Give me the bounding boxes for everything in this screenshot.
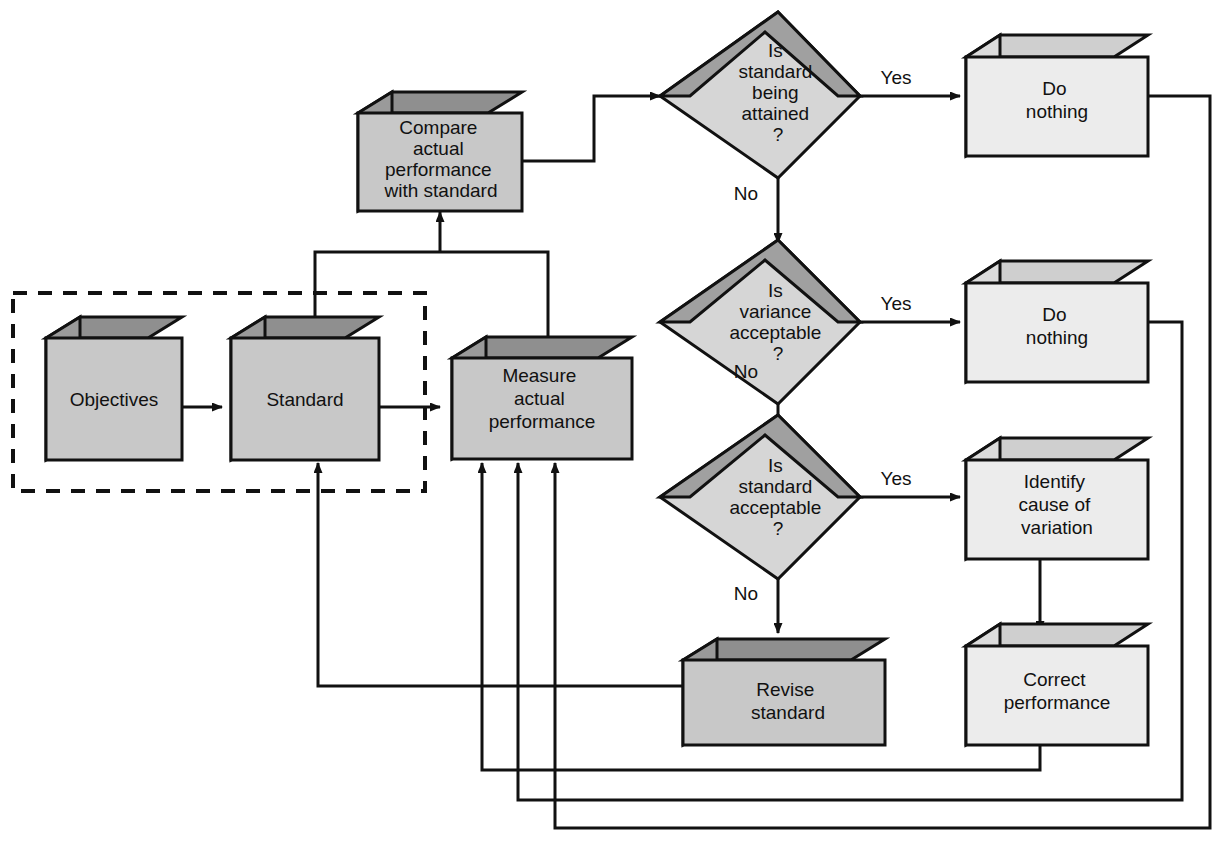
node-stdaccept[interactable]: Is standard acceptable ? <box>660 415 860 579</box>
node-attained[interactable]: Is standard being attained ? <box>660 12 860 178</box>
node-measure[interactable]: Measure actual performance <box>452 337 632 459</box>
objectives-label: Objectives <box>70 389 159 410</box>
label-yes-3: Yes <box>881 468 912 489</box>
identify-label: Identify cause of variation <box>1018 471 1095 538</box>
compare-label: Compare actual performance with standard <box>383 117 497 201</box>
standard-label: Standard <box>266 389 343 410</box>
node-standard[interactable]: Standard <box>231 317 379 460</box>
label-no-1: No <box>734 183 758 204</box>
edge-compare-to-attained <box>522 96 660 161</box>
label-no-2: No <box>734 361 758 382</box>
flowchart-svg: Objectives Standard Measure actual perfo… <box>0 0 1213 844</box>
node-variance[interactable]: Is variance acceptable ? <box>660 240 860 404</box>
diagram-canvas: Objectives Standard Measure actual perfo… <box>0 0 1213 844</box>
edge-revise-to-standard <box>318 463 683 686</box>
node-identify[interactable]: Identify cause of variation <box>966 438 1148 559</box>
node-correct[interactable]: Correct performance <box>966 624 1148 745</box>
label-yes-1: Yes <box>881 67 912 88</box>
label-yes-2: Yes <box>881 293 912 314</box>
node-donothing-1[interactable]: Do nothing <box>966 35 1148 156</box>
node-revise[interactable]: Revise standard <box>683 639 885 745</box>
node-donothing-2[interactable]: Do nothing <box>966 261 1148 382</box>
node-objectives[interactable]: Objectives <box>46 317 182 460</box>
label-no-3: No <box>734 583 758 604</box>
node-compare[interactable]: Compare actual performance with standard <box>358 92 522 211</box>
